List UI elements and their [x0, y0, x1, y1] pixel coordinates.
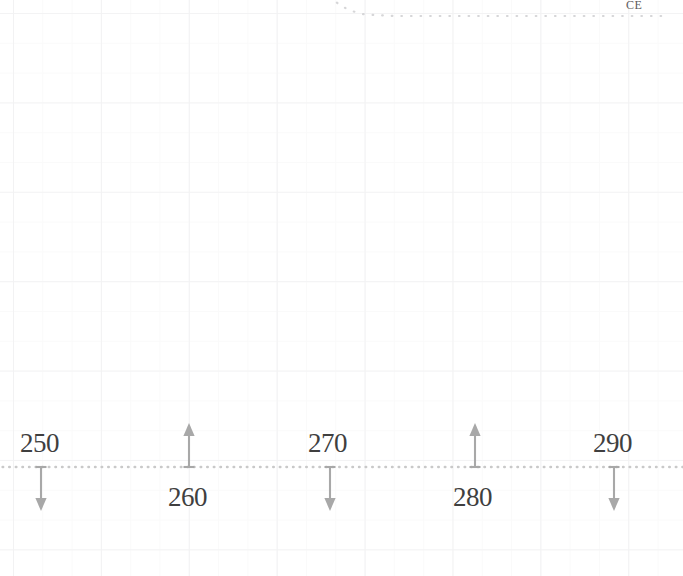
chart-canvas: 250260270280290 CE	[0, 0, 683, 576]
axis-annotation-ce: CE	[626, 0, 642, 13]
marker-label-270: 270	[308, 430, 347, 457]
marker-label-290: 290	[593, 430, 632, 457]
marker-label-280: 280	[453, 484, 492, 511]
marker-labels: 250260270280290	[0, 0, 683, 576]
marker-label-250: 250	[20, 430, 59, 457]
marker-label-260: 260	[168, 484, 207, 511]
